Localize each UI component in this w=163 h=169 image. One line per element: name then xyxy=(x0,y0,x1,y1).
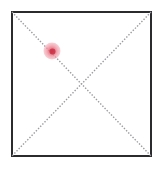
highlight-marker[interactable] xyxy=(44,43,61,60)
region-bounding-box[interactable] xyxy=(11,11,152,157)
highlight-marker-core xyxy=(49,48,55,54)
screenshot-viewport xyxy=(0,0,163,169)
